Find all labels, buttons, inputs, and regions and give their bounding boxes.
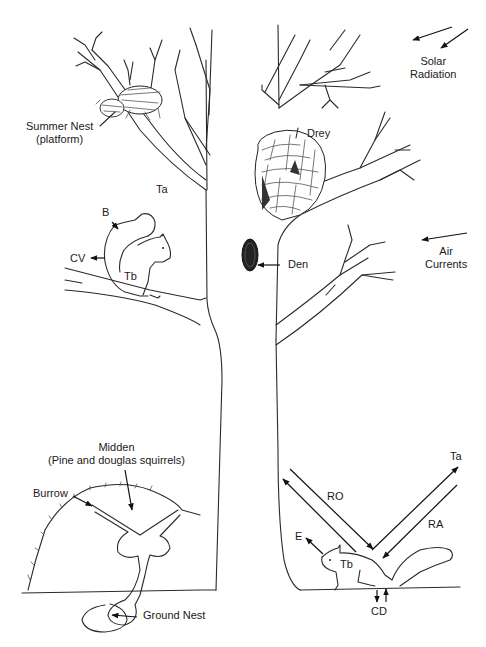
b-label: B	[102, 206, 109, 219]
right-tree	[262, 25, 420, 590]
ro-in-arrow	[290, 469, 373, 549]
ground-line	[300, 587, 460, 590]
burrow-arrow	[73, 496, 92, 506]
ra-label: RA	[428, 518, 443, 531]
midden-label: Midden (Pine and douglas squirrels)	[48, 441, 185, 467]
ro-out-arrow	[283, 479, 356, 552]
midden-subtitle: (Pine and douglas squirrels)	[48, 454, 185, 467]
summer-nest-title: Summer Nest	[26, 120, 93, 133]
solar-radiation-label: Solar Radiation	[410, 55, 456, 81]
solar-arrow-2	[441, 29, 468, 48]
e-label: E	[295, 530, 302, 543]
ground-nest-label: Ground Nest	[143, 609, 205, 622]
den-label: Den	[288, 258, 308, 271]
upper-squirrel	[104, 214, 170, 298]
burrow-label: Burrow	[33, 487, 68, 500]
den-hole	[242, 239, 258, 271]
tb-lower-label: Tb	[340, 558, 353, 571]
air-label-line1: Air	[425, 245, 467, 258]
e-arrow	[306, 538, 323, 554]
solar-label-line1: Solar	[410, 55, 456, 68]
solar-arrow-1	[413, 27, 452, 40]
drey-label: Drey	[307, 127, 330, 140]
midden-title: Midden	[48, 441, 185, 454]
ground-nest-arrow	[112, 615, 137, 617]
ta-bottom-label: Ta	[450, 450, 462, 463]
summer-nest-label: Summer Nest (platform)	[26, 120, 93, 146]
summer-nest-drawing	[96, 86, 162, 126]
ro-label: RO	[327, 490, 344, 503]
air-currents-arrow	[422, 233, 467, 240]
air-label-line2: Currents	[425, 258, 467, 271]
summer-nest-subtitle: (platform)	[26, 133, 93, 146]
cd-label: CD	[371, 605, 387, 618]
tb-upper-label: Tb	[124, 270, 137, 283]
midden-arrow	[125, 470, 132, 510]
ra-in-arrow	[383, 485, 457, 558]
squirrel-habitat-diagram	[0, 0, 486, 647]
air-currents-label: Air Currents	[425, 245, 467, 271]
cv-label: CV	[70, 252, 85, 265]
drey-drawing	[255, 128, 326, 220]
ta-top-label: Ta	[156, 183, 168, 196]
ta-out-arrow	[372, 467, 458, 550]
solar-label-line2: Radiation	[410, 68, 456, 81]
